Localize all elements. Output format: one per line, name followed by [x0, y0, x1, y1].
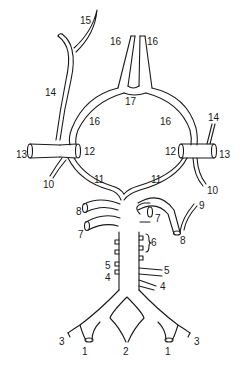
label-13-left: 13 — [16, 150, 27, 160]
label-16-top-right: 16 — [147, 37, 158, 47]
label-10-left: 10 — [43, 180, 54, 190]
label-6: 6 — [151, 238, 157, 248]
vessel-14-left — [56, 34, 73, 140]
label-16-mid-right: 16 — [160, 117, 171, 127]
label-16-top-left: 16 — [110, 37, 121, 47]
label-13-right: 13 — [219, 150, 230, 160]
label-7-right: 7 — [155, 214, 161, 224]
label-10-right: 10 — [207, 186, 218, 196]
label-1-right: 1 — [165, 347, 171, 357]
vessel-base — [68, 290, 190, 333]
label-12-left: 12 — [84, 147, 95, 157]
vessel-diagram — [0, 0, 242, 366]
label-7-left: 7 — [78, 230, 84, 240]
vessel-7-left — [86, 216, 120, 230]
label-8-left: 8 — [76, 207, 82, 217]
label-5-right: 5 — [164, 266, 170, 276]
label-1-left: 1 — [82, 347, 88, 357]
label-11-right: 11 — [151, 175, 161, 185]
label-8-right: 8 — [180, 236, 186, 246]
label-12-right: 12 — [165, 147, 176, 157]
label-4-left: 4 — [105, 273, 111, 283]
label-5-left: 5 — [105, 261, 111, 271]
vessel-trunk — [119, 232, 139, 290]
label-2: 2 — [123, 347, 129, 357]
label-3-left: 3 — [59, 337, 65, 347]
vessel-10-left — [50, 158, 66, 178]
label-11-left: 11 — [94, 175, 104, 185]
label-16-mid-left: 16 — [89, 117, 100, 127]
label-3-right: 3 — [194, 337, 200, 347]
label-15: 15 — [80, 16, 91, 26]
vessel-10-right — [193, 158, 206, 186]
vessel-4-right — [139, 280, 156, 290]
label-4-right: 4 — [160, 282, 166, 292]
vessel-14-right — [207, 124, 215, 144]
label-17: 17 — [125, 97, 136, 107]
vessel-8-left — [84, 200, 120, 212]
label-14-left: 14 — [45, 88, 56, 98]
label-9: 9 — [199, 201, 205, 211]
vessel-13-left — [30, 144, 60, 158]
label-14-right: 14 — [208, 113, 219, 123]
vessel-9 — [180, 204, 197, 232]
vessel-5-right — [139, 268, 162, 276]
